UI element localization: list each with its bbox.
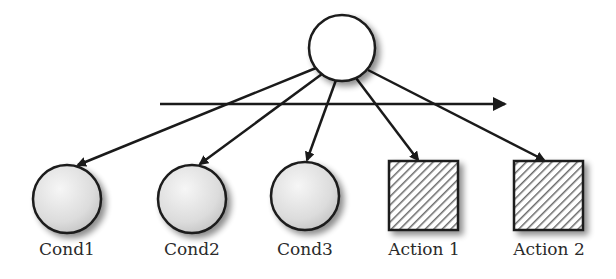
edges	[78, 68, 544, 165]
diagram-canvas: Cond1 Cond2 Cond3 Action 1 Action 2	[0, 0, 616, 279]
action1-node	[389, 161, 458, 230]
cond1-node	[33, 165, 101, 233]
action1-label: Action 1	[387, 239, 459, 259]
cond2-label: Cond2	[164, 239, 220, 259]
root-node	[309, 15, 375, 81]
edge-root-cond2	[200, 74, 322, 164]
cond3-label: Cond3	[277, 239, 333, 259]
cond1-label: Cond1	[39, 239, 95, 259]
action2-label: Action 2	[512, 239, 584, 259]
edge-root-cond1	[78, 68, 316, 165]
action2-node	[514, 161, 583, 230]
cond2-node	[158, 165, 226, 233]
edge-root-action2	[368, 70, 544, 160]
cond3-node	[271, 162, 339, 230]
edge-root-cond3	[307, 80, 336, 160]
